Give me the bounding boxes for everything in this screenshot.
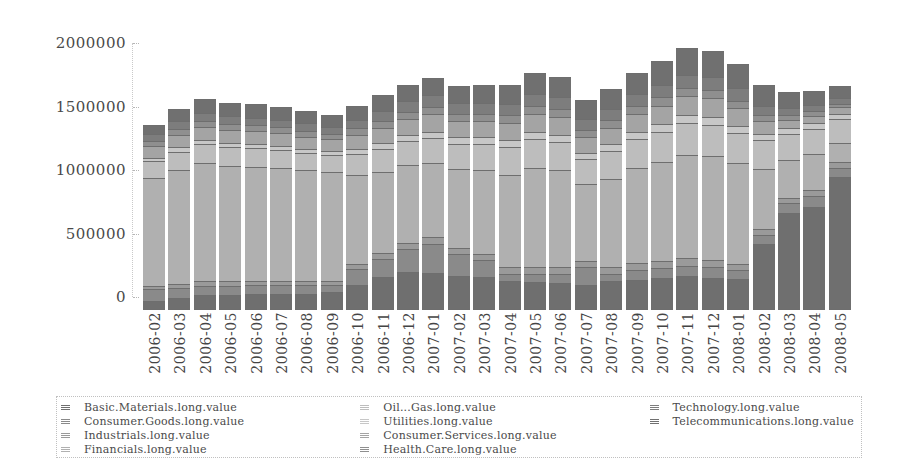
bar-segment [422, 237, 444, 244]
bar-segment [676, 115, 698, 123]
bar-segment [321, 155, 343, 172]
x-tick-label: 2007-02 [452, 312, 468, 374]
y-axis-tick [133, 170, 139, 171]
bar-segment [295, 137, 317, 149]
legend-item[interactable]: Oil...Gas.long.value [360, 401, 649, 414]
bar-2006-03 [168, 109, 190, 310]
legend-item[interactable]: Technology.long.value [650, 401, 859, 414]
bar-segment [143, 125, 165, 133]
x-tick-label: 2006-09 [325, 312, 341, 374]
bar-segment [676, 155, 698, 258]
bar-2006-11 [372, 95, 394, 310]
bar-2008-05 [829, 86, 851, 310]
bar-segment [397, 141, 419, 165]
legend-label: Technology.long.value [673, 401, 800, 414]
bar-segment [626, 132, 648, 139]
y-tick-label: 1000000 [56, 161, 126, 179]
legend-item[interactable]: Basic.Materials.long.value [61, 401, 360, 414]
bar-2006-06 [245, 104, 267, 310]
legend-item[interactable]: Consumer.Services.long.value [360, 429, 649, 442]
x-tick-label: 2007-12 [706, 312, 722, 374]
legend-item[interactable]: Industrials.long.value [61, 429, 360, 442]
bar-segment [524, 267, 546, 274]
bar-segment [245, 148, 267, 166]
bar-2006-08 [295, 111, 317, 310]
bar-segment [448, 114, 470, 121]
bar-2008-02 [753, 85, 775, 310]
bar-segment [168, 109, 190, 121]
legend-label: Oil...Gas.long.value [383, 401, 496, 414]
bar-segment [346, 285, 368, 310]
legend-column: Oil...Gas.long.valueUtilities.long.value… [360, 401, 649, 455]
x-tick-label: 2006-12 [401, 312, 417, 374]
bar-segment [549, 267, 571, 274]
bar-segment [727, 133, 749, 163]
bar-segment [397, 165, 419, 242]
bar-2007-09 [626, 73, 648, 310]
bar-segment [422, 95, 444, 106]
bar-segment [753, 244, 775, 310]
bar-segment [499, 140, 521, 147]
x-tick-label: 2006-03 [172, 312, 188, 374]
bar-segment [194, 286, 216, 296]
bar-segment [651, 162, 673, 261]
bar-segment [829, 86, 851, 98]
legend-label: Telecommunications.long.value [673, 415, 854, 428]
bar-segment [575, 159, 597, 184]
bar-segment [473, 260, 495, 277]
x-tick-label: 2008-03 [782, 312, 798, 374]
bar-segment [600, 151, 622, 178]
x-tick-label: 2007-08 [604, 312, 620, 374]
bar-segment [194, 163, 216, 281]
bar-segment [549, 283, 571, 310]
bar-2006-09 [321, 115, 343, 311]
bar-segment [295, 153, 317, 170]
bar-segment [372, 128, 394, 143]
bar-2008-03 [778, 92, 800, 310]
bar-segment [676, 48, 698, 75]
bar-segment [448, 169, 470, 248]
bar-segment [600, 120, 622, 128]
bar-segment [270, 120, 292, 128]
bar-segment [651, 268, 673, 278]
y-axis-labels: 0500000100000015000002000000 [0, 30, 126, 310]
bar-segment [778, 120, 800, 129]
bar-segment [778, 160, 800, 198]
bar-segment [727, 126, 749, 133]
bar-segment [803, 91, 825, 105]
bar-segment [549, 135, 571, 142]
legend-item[interactable]: Financials.long.value [61, 443, 360, 456]
bar-segment [143, 134, 165, 141]
legend-item[interactable]: Health.Care.long.value [360, 443, 649, 456]
legend-swatch-icon [61, 404, 70, 411]
legend-item[interactable]: Consumer.Goods.long.value [61, 415, 360, 428]
bar-segment [676, 258, 698, 266]
bar-2006-02 [143, 125, 165, 310]
bar-segment [727, 101, 749, 109]
bar-segment [702, 98, 724, 117]
bar-segment [778, 213, 800, 310]
legend-item[interactable]: Telecommunications.long.value [650, 415, 859, 428]
bar-segment [372, 259, 394, 277]
bar-segment [651, 85, 673, 98]
bar-segment [651, 106, 673, 124]
bar-segment [219, 166, 241, 282]
bar-2006-10 [346, 106, 368, 310]
bar-segment [829, 143, 851, 162]
bar-segment [524, 139, 546, 168]
legend-item[interactable]: Utilities.long.value [360, 415, 649, 428]
bar-segment [295, 294, 317, 311]
bar-segment [397, 272, 419, 310]
bar-segment [219, 295, 241, 310]
bar-segment [473, 170, 495, 254]
bar-segment [422, 114, 444, 131]
bar-segment [245, 294, 267, 311]
bar-segment [549, 117, 571, 135]
x-tick-label: 2007-01 [426, 312, 442, 374]
x-tick-label: 2006-08 [299, 312, 315, 374]
legend-columns: Basic.Materials.long.valueConsumer.Goods… [61, 401, 859, 455]
bar-segment [778, 203, 800, 213]
x-tick-label: 2007-06 [553, 312, 569, 374]
bar-segment [651, 97, 673, 105]
bar-segment [727, 163, 749, 263]
